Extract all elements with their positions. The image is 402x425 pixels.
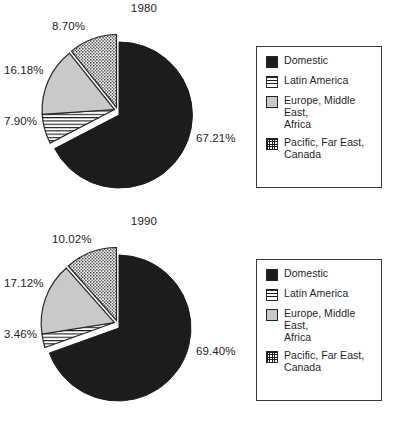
slice-label-europe-1990: 17.12%: [4, 277, 44, 289]
legend-label-europe-line1: Europe, Middle East,: [284, 94, 355, 118]
slice-label-pacific-1990: 10.02%: [52, 233, 92, 245]
legend-label-pacific-line1: Pacific, Far East,: [284, 349, 364, 361]
legend-item-europe: Europe, Middle East, Africa: [266, 95, 377, 130]
legend-1990: Domestic Latin America Europe, Middle Ea…: [256, 259, 382, 401]
legend-label-pacific: Pacific, Far East, Canada: [284, 350, 364, 374]
legend-label-latin-america: Latin America: [284, 75, 348, 87]
legend-label-pacific: Pacific, Far East, Canada: [284, 137, 364, 161]
legend-label-latin-america: Latin America: [284, 288, 348, 300]
pie-svg-1980: [28, 28, 218, 200]
legend-item-pacific: Pacific, Far East, Canada: [266, 137, 377, 161]
slice-label-europe-1980: 16.18%: [4, 64, 44, 76]
gray-fill-swatch-icon: [266, 309, 278, 321]
legend-label-europe-line2: Africa: [284, 119, 377, 131]
legend-item-europe: Europe, Middle East, Africa: [266, 308, 377, 343]
legend-label-europe-line2: Africa: [284, 332, 377, 344]
legend-item-pacific: Pacific, Far East, Canada: [266, 350, 377, 374]
gray-fill-swatch-icon: [266, 96, 278, 108]
legend-label-europe: Europe, Middle East, Africa: [284, 95, 377, 130]
checker-dot-swatch-icon: [266, 351, 278, 363]
legend-label-pacific-line2: Canada: [284, 149, 364, 161]
legend-item-latin-america: Latin America: [266, 288, 377, 301]
chart-panel-1990: 1990 69.40% 1: [0, 213, 402, 425]
legend-label-europe: Europe, Middle East, Africa: [284, 308, 377, 343]
slice-label-pacific-1980: 8.70%: [52, 20, 85, 32]
legend-label-domestic: Domestic: [284, 55, 328, 67]
legend-item-domestic: Domestic: [266, 55, 377, 68]
slice-label-latin-america-1990: 3.46%: [4, 328, 37, 340]
chart-panel-1980: 1980 67.21% 1: [0, 0, 402, 212]
legend-label-domestic: Domestic: [284, 268, 328, 280]
pie-chart-1990: [28, 241, 218, 413]
legend-item-domestic: Domestic: [266, 268, 377, 281]
legend-item-latin-america: Latin America: [266, 75, 377, 88]
horizontal-stripe-swatch-icon: [266, 76, 278, 88]
checker-dot-swatch-icon: [266, 138, 278, 150]
slice-label-domestic-1980: 67.21%: [196, 132, 236, 144]
chart-title-1990: 1990: [0, 215, 288, 227]
solid-black-swatch-icon: [266, 269, 278, 281]
horizontal-stripe-swatch-icon: [266, 289, 278, 301]
legend-label-pacific-line2: Canada: [284, 362, 364, 374]
solid-black-swatch-icon: [266, 56, 278, 68]
pie-svg-1990: [28, 241, 218, 413]
legend-1980: Domestic Latin America Europe, Middle Ea…: [256, 46, 382, 188]
chart-title-1980: 1980: [0, 2, 288, 14]
legend-label-europe-line1: Europe, Middle East,: [284, 307, 355, 331]
pie-chart-1980: [28, 28, 218, 200]
slice-label-latin-america-1980: 7.90%: [4, 115, 37, 127]
legend-label-pacific-line1: Pacific, Far East,: [284, 136, 364, 148]
slice-label-domestic-1990: 69.40%: [196, 345, 236, 357]
